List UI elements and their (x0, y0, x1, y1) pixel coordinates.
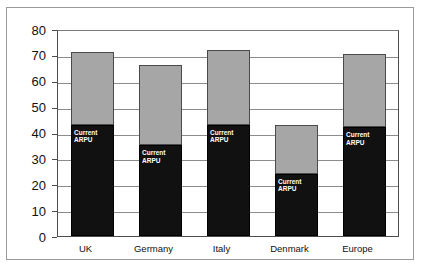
bar-denmark[interactable]: Current ARPU (275, 125, 318, 236)
x-tick-label-italy: Italy (184, 243, 259, 254)
x-tick-label-europe: Europe (320, 243, 395, 254)
y-tick-label-80: 80 (32, 24, 46, 37)
bar-italy[interactable]: Current ARPU (207, 50, 250, 236)
bar-italy-segment-current-arpu[interactable]: Current ARPU (207, 125, 250, 236)
y-tick-label-20: 20 (32, 179, 46, 192)
bar-uk-segment-current-arpu[interactable]: Current ARPU (71, 125, 114, 236)
bar-uk[interactable]: Current ARPU (71, 52, 114, 236)
bar-europe-segment-current-arpu[interactable]: Current ARPU (343, 127, 386, 236)
bar-europe-annotation: Current ARPU (346, 131, 383, 146)
bar-europe-segment-uplift[interactable] (343, 54, 386, 128)
y-axis-label-group: 80 70 60 50 40 30 20 10 0 (0, 0, 46, 268)
x-tick-label-denmark: Denmark (252, 243, 327, 254)
bar-germany-annotation: Current ARPU (142, 149, 179, 164)
bar-europe[interactable]: Current ARPU (343, 54, 386, 236)
x-tick-label-uk: UK (48, 243, 123, 254)
bar-germany[interactable]: Current ARPU (139, 65, 182, 236)
bar-denmark-annotation: Current ARPU (278, 178, 315, 193)
bar-germany-segment-uplift[interactable] (139, 65, 182, 145)
y-tick-label-0: 0 (39, 231, 46, 244)
y-tick-label-10: 10 (32, 205, 46, 218)
bar-denmark-segment-uplift[interactable] (275, 125, 318, 174)
bar-denmark-segment-current-arpu[interactable]: Current ARPU (275, 174, 318, 236)
bar-uk-segment-uplift[interactable] (71, 52, 114, 124)
y-tick-label-50: 50 (32, 101, 46, 114)
bar-italy-segment-uplift[interactable] (207, 50, 250, 125)
y-tick-label-70: 70 (32, 49, 46, 62)
bar-uk-annotation: Current ARPU (74, 129, 111, 144)
bar-italy-annotation: Current ARPU (210, 129, 247, 144)
y-tick-label-60: 60 (32, 75, 46, 88)
chart-container: 80 70 60 50 40 30 20 10 0 Current ARPU (0, 0, 421, 268)
y-tick-label-30: 30 (32, 153, 46, 166)
plot-area: Current ARPU Current ARPU Current ARPU C… (57, 30, 399, 237)
x-tick-label-germany: Germany (116, 243, 191, 254)
y-tick-mark-0 (52, 237, 57, 238)
y-tick-label-40: 40 (32, 127, 46, 140)
bar-germany-segment-current-arpu[interactable]: Current ARPU (139, 145, 182, 236)
